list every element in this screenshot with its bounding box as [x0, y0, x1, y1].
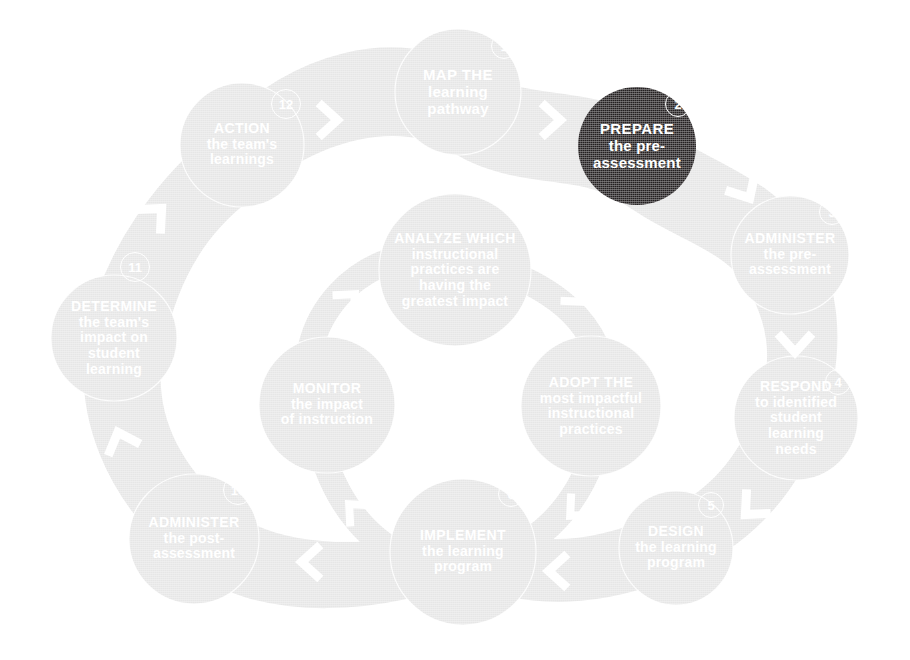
step-circle-1[interactable] — [395, 29, 521, 155]
step-circle-4[interactable] — [734, 356, 858, 480]
step-circle-11[interactable] — [51, 275, 177, 401]
cycle-diagram-svg — [0, 0, 910, 660]
step-circle-6[interactable] — [390, 479, 536, 625]
cycle-diagram-canvas: MAP thelearningpathway1PREPAREthe pre-as… — [0, 0, 910, 660]
step-circle-10[interactable] — [129, 474, 259, 604]
step-circle-12[interactable] — [180, 83, 304, 207]
step-circle-3[interactable] — [731, 196, 849, 314]
step-circle-5[interactable] — [619, 491, 733, 605]
step-circle-9[interactable] — [521, 336, 661, 476]
step-circle-7[interactable] — [259, 337, 395, 473]
step-circle-8[interactable] — [379, 194, 531, 346]
step-circle-2[interactable] — [578, 87, 696, 205]
